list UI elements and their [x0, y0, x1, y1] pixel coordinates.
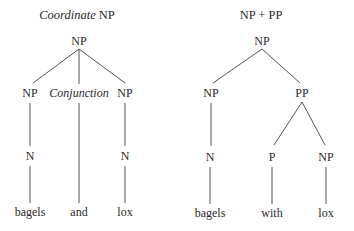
syntax-trees-diagram: Coordinate NP NP NP Conjunction NP N N b… [0, 0, 354, 231]
np-pp-tree: NP + PP NP NP PP N P NP bagels with lox [195, 8, 334, 220]
leaf-bagels: bagels [195, 206, 226, 220]
root-np-node: NP [254, 34, 270, 48]
pp-np-node: NP [318, 150, 334, 164]
n-node: N [206, 150, 215, 164]
np-pp-title: NP + PP [240, 8, 283, 22]
leaf-lox: lox [117, 205, 132, 219]
p-node: P [269, 150, 276, 164]
root-np-node: NP [71, 34, 87, 48]
left-n-node: N [26, 149, 35, 163]
edge-root-np [213, 49, 262, 83]
edge-root-left-np [33, 49, 79, 83]
edge-pp-np [302, 102, 325, 145]
conjunction-node: Conjunction [49, 86, 108, 100]
edge-root-pp [262, 49, 300, 83]
leaf-bagels: bagels [15, 205, 46, 219]
np-node: NP [203, 86, 219, 100]
right-n-node: N [121, 149, 130, 163]
left-np-node: NP [22, 86, 38, 100]
leaf-lox: lox [318, 206, 333, 220]
right-np-node: NP [117, 86, 133, 100]
leaf-with: with [261, 206, 282, 220]
coordinate-np-tree: Coordinate NP NP NP Conjunction NP N N b… [15, 8, 133, 219]
edge-pp-p [274, 102, 302, 145]
pp-node: PP [295, 86, 309, 100]
coordinate-np-title: Coordinate NP [39, 8, 115, 22]
leaf-and: and [70, 205, 87, 219]
edge-root-right-np [79, 49, 125, 83]
